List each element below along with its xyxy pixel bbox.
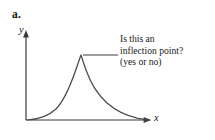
annotation-line-1: Is this an — [120, 33, 215, 45]
figure-container: a. y x Is this an inflection point? (yes… — [0, 0, 215, 140]
x-axis — [26, 117, 151, 123]
x-axis-label: x — [154, 113, 159, 124]
y-axis-label: y — [19, 25, 24, 36]
y-axis — [23, 30, 29, 120]
annotation-line-2: inflection point? — [120, 45, 215, 57]
plot-graphic — [0, 0, 215, 140]
annotation-line-3: (yes or no) — [120, 56, 215, 68]
annotation-text-block: Is this an inflection point? (yes or no) — [120, 33, 215, 68]
